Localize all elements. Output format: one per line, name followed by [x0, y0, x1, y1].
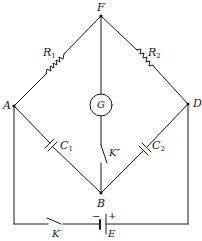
label-k1: K′ — [52, 229, 62, 239]
node-a-dot — [12, 104, 15, 107]
node-b-dot — [99, 191, 102, 194]
label-c1: C1 — [60, 140, 73, 153]
label-c2-sub: 2 — [160, 145, 164, 153]
wire-f-d — [101, 16, 188, 104]
label-r2: R2 — [148, 47, 161, 60]
label-r2-sub: 2 — [156, 52, 160, 60]
label-c2: C2 — [152, 140, 165, 153]
label-d: D — [193, 98, 202, 109]
label-battery-minus: − — [92, 212, 100, 222]
label-c1-sub: 1 — [68, 145, 72, 153]
label-a: A — [3, 100, 11, 111]
label-f: F — [97, 2, 105, 13]
label-g: G — [97, 100, 105, 110]
label-k2: K″ — [109, 148, 120, 158]
wire-a-f — [14, 16, 101, 106]
switch-k2-icon[interactable] — [101, 145, 107, 163]
wire-a-b — [14, 106, 101, 193]
label-r1: R1 — [43, 47, 56, 60]
node-d-dot — [186, 102, 189, 105]
label-e: E — [108, 229, 115, 239]
label-battery-plus: + — [108, 211, 116, 221]
node-f-dot — [99, 14, 102, 17]
label-b: B — [97, 198, 105, 209]
switch-k1-icon[interactable] — [47, 218, 61, 224]
label-r1-sub: 1 — [51, 52, 55, 60]
